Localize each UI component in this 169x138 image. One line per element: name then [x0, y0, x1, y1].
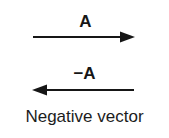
figure-caption: Negative vector — [0, 107, 169, 127]
vector-a-arrowhead — [120, 32, 135, 43]
vector-a-arrow-right — [0, 26, 169, 48]
vector-negative-a-arrow-left — [0, 79, 169, 101]
vector-negative-a-arrowhead — [32, 85, 47, 96]
negative-vector-figure: A −A Negative vector — [0, 0, 169, 138]
